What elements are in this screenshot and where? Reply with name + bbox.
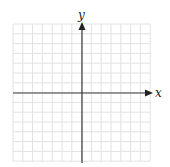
y-axis-arrow-icon (79, 22, 86, 30)
x-axis-arrow-icon (145, 90, 153, 97)
coordinate-plane: x y (0, 0, 170, 167)
y-axis-label: y (77, 8, 85, 22)
x-axis-label: x (155, 86, 162, 100)
